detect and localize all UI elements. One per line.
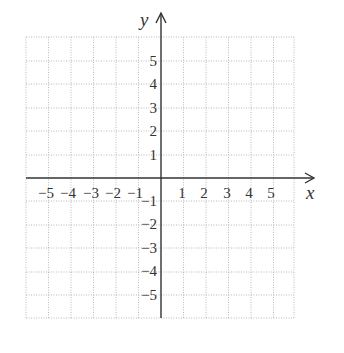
x-tick: −5 — [38, 185, 54, 201]
coordinate-plane: x y −5 −4 −3 −2 −1 1 2 3 4 5 5 4 3 2 1 −… — [0, 0, 344, 353]
y-tick: 2 — [150, 123, 158, 139]
x-axis-label: x — [305, 182, 315, 203]
y-axis-label: y — [138, 9, 149, 30]
y-tick: −5 — [141, 287, 157, 303]
y-tick: −2 — [141, 216, 157, 232]
x-tick: 2 — [200, 185, 208, 201]
y-tick: −3 — [141, 240, 157, 256]
x-tick: 3 — [223, 185, 231, 201]
y-tick: 4 — [150, 76, 158, 92]
y-tick: −4 — [141, 263, 157, 279]
y-tick: −1 — [141, 193, 157, 209]
x-tick: −4 — [60, 185, 76, 201]
y-tick: 5 — [150, 53, 158, 69]
y-tick: 1 — [150, 147, 158, 163]
x-tick: 4 — [245, 185, 253, 201]
y-tick: 3 — [150, 100, 158, 116]
x-tick: 5 — [267, 185, 275, 201]
x-tick: 1 — [178, 185, 186, 201]
x-tick: −2 — [105, 185, 121, 201]
x-tick: −3 — [83, 185, 99, 201]
